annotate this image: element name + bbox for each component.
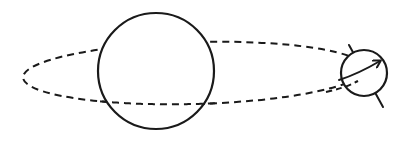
central-body [98,13,214,129]
orbiting-body [341,50,387,96]
orbit-diagram [0,0,409,144]
